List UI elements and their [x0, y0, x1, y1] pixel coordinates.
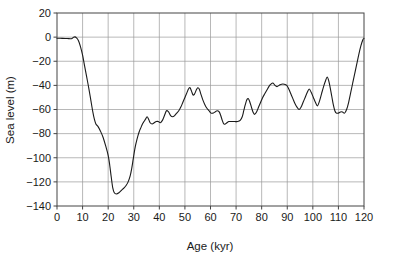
y-tick-label: 20	[39, 7, 51, 19]
x-tick-label: 80	[256, 211, 268, 223]
x-tick-label: 70	[230, 211, 242, 223]
y-tick-label: −20	[32, 55, 51, 67]
x-tick-label: 110	[330, 211, 348, 223]
x-tick-label: 100	[304, 211, 322, 223]
x-tick-label: 40	[153, 211, 165, 223]
sea-level-chart-figure: 0102030405060708090100110120 200−20−40−6…	[0, 0, 418, 257]
x-tick-label: 120	[355, 211, 373, 223]
y-tick-label: −100	[26, 152, 51, 164]
x-tick-label: 90	[281, 211, 293, 223]
y-tick-label: −140	[26, 200, 51, 212]
x-tick-label: 0	[54, 211, 60, 223]
x-tick-label: 10	[76, 211, 88, 223]
x-axis-tick-labels: 0102030405060708090100110120	[54, 211, 373, 223]
y-axis-tick-labels: 200−20−40−60−80−100−120−140	[26, 7, 51, 212]
y-tick-label: −60	[32, 103, 51, 115]
y-axis-ticks	[54, 13, 58, 206]
y-tick-label: −120	[26, 176, 51, 188]
x-axis-title: Age (kyr)	[187, 240, 234, 252]
y-tick-label: −40	[32, 79, 51, 91]
x-tick-label: 30	[128, 211, 140, 223]
y-tick-label: 0	[45, 31, 51, 43]
y-axis-title: Sea level (m)	[4, 76, 16, 144]
x-tick-label: 60	[204, 211, 216, 223]
y-tick-label: −80	[32, 127, 51, 139]
chart-plot-area: 0102030405060708090100110120 200−20−40−6…	[0, 0, 418, 257]
x-axis-ticks	[57, 206, 364, 210]
x-tick-label: 20	[102, 211, 114, 223]
x-tick-label: 50	[179, 211, 191, 223]
